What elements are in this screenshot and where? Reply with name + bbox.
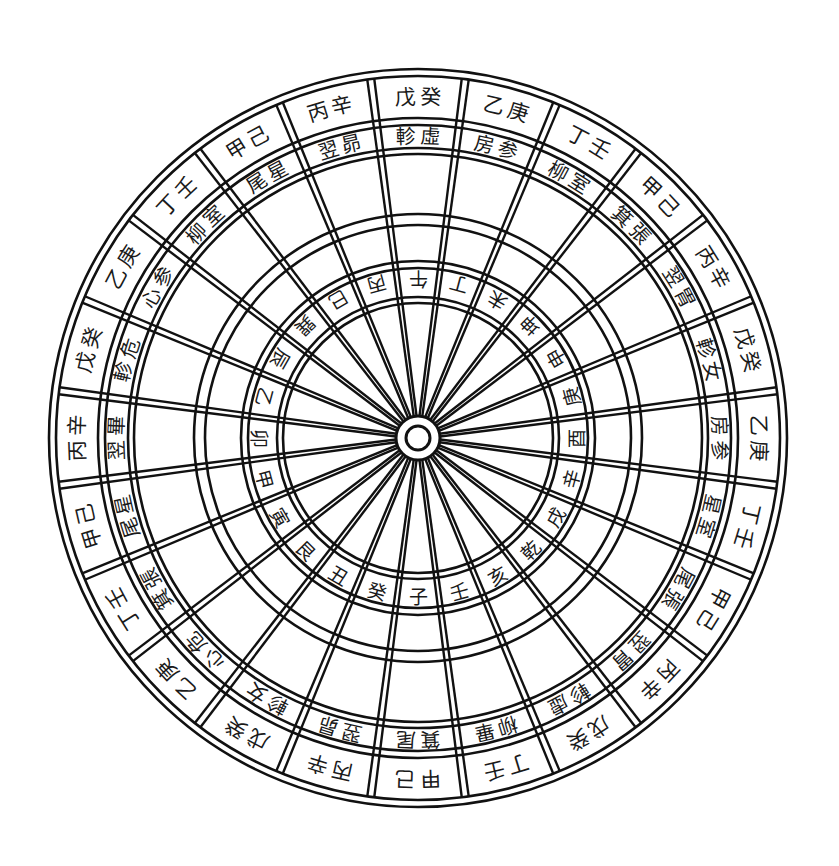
stem-pair-label: 乙 (746, 415, 771, 437)
lunar-mansion-label: 虛 (420, 124, 441, 149)
spoke-line (438, 448, 751, 580)
stem-pair-label: 癸 (420, 85, 442, 110)
lunar-mansion-label: 尾 (395, 727, 416, 752)
spoke-line (276, 458, 408, 771)
stem-pair-label: 丙 (65, 440, 90, 462)
lunar-mansion-label: 翌 (339, 718, 364, 746)
spoke-line (85, 296, 398, 428)
stem-pair-label: 丙 (304, 98, 331, 127)
mountain-label: 寅 (266, 504, 295, 531)
mountain-label: 辰 (266, 345, 295, 372)
stem-pair-label: 癸 (78, 324, 107, 351)
mountain-label: 戌 (541, 504, 570, 531)
lunar-mansion-label: 参 (707, 440, 732, 461)
mountain-label: 子 (409, 586, 428, 608)
mountain-label: 申 (541, 345, 570, 372)
stem-pair-label: 乙 (481, 92, 507, 120)
stem-pair-label: 丙 (329, 756, 355, 784)
center-hub (396, 416, 440, 460)
stem-pair-label: 戊 (72, 349, 100, 375)
stem-pair-label: 辛 (304, 749, 331, 778)
mountain-label: 艮 (291, 536, 320, 565)
stem-pair-label: 癸 (736, 349, 764, 375)
lunar-mansion-label: 軫 (395, 124, 416, 149)
mountain-label: 未 (484, 286, 511, 315)
lunar-mansion-label: 星 (110, 492, 138, 517)
mountain-label: 酉 (566, 429, 588, 448)
mountain-label: 午 (409, 268, 428, 290)
lunar-mansion-label: 星 (698, 492, 726, 517)
mountain-label: 巽 (291, 311, 320, 340)
stem-pair-label: 壬 (729, 525, 758, 552)
stem-pair-label: 丁 (736, 501, 764, 527)
mountain-label: 卯 (248, 429, 270, 448)
stem-pair-label: 辛 (329, 92, 355, 120)
stem-pair-label: 壬 (481, 756, 507, 784)
lunar-mansion-label: 畢 (472, 718, 497, 746)
stem-pair-label: 己 (72, 501, 100, 527)
stem-pair-label: 戊 (395, 85, 417, 110)
mountain-label: 坤 (516, 311, 545, 340)
lunar-mansion-label: 房 (472, 130, 497, 158)
mountain-label: 乾 (516, 536, 545, 565)
spoke-line (428, 105, 560, 418)
lunar-mansion-label: 翌 (104, 440, 129, 461)
lunar-mansion-label: 房 (707, 415, 732, 436)
stem-pair-label: 辛 (65, 415, 90, 437)
spoke-line (85, 448, 398, 580)
stem-pair-label: 己 (395, 766, 417, 791)
lunar-mansion-label: 箕 (420, 727, 441, 752)
stem-pair-label: 庚 (505, 98, 532, 127)
stem-pair-label: 庚 (746, 440, 771, 462)
lunar-mansion-label: 軫 (110, 359, 138, 384)
lunar-mansion-label: 女 (698, 359, 726, 384)
mountain-label: 巳 (325, 286, 352, 315)
mountain-label: 亥 (484, 561, 511, 590)
lunar-mansion-label: 昴 (339, 130, 364, 158)
stem-pair-label: 丁 (505, 749, 532, 778)
lunar-mansion-label: 畢 (104, 415, 129, 436)
hub-inner-circle (406, 426, 430, 450)
compass-dial: 戊癸軫虛午乙庚房参丁丁壬柳室未甲己箕張坤丙辛翌胃申戊癸軫女庚乙庚房参酉丁壬星室辛… (0, 0, 839, 866)
stem-pair-label: 戊 (729, 324, 758, 351)
stem-pair-label: 甲 (420, 766, 442, 791)
stem-pair-label: 甲 (78, 525, 107, 552)
mountain-label: 丑 (325, 561, 352, 590)
